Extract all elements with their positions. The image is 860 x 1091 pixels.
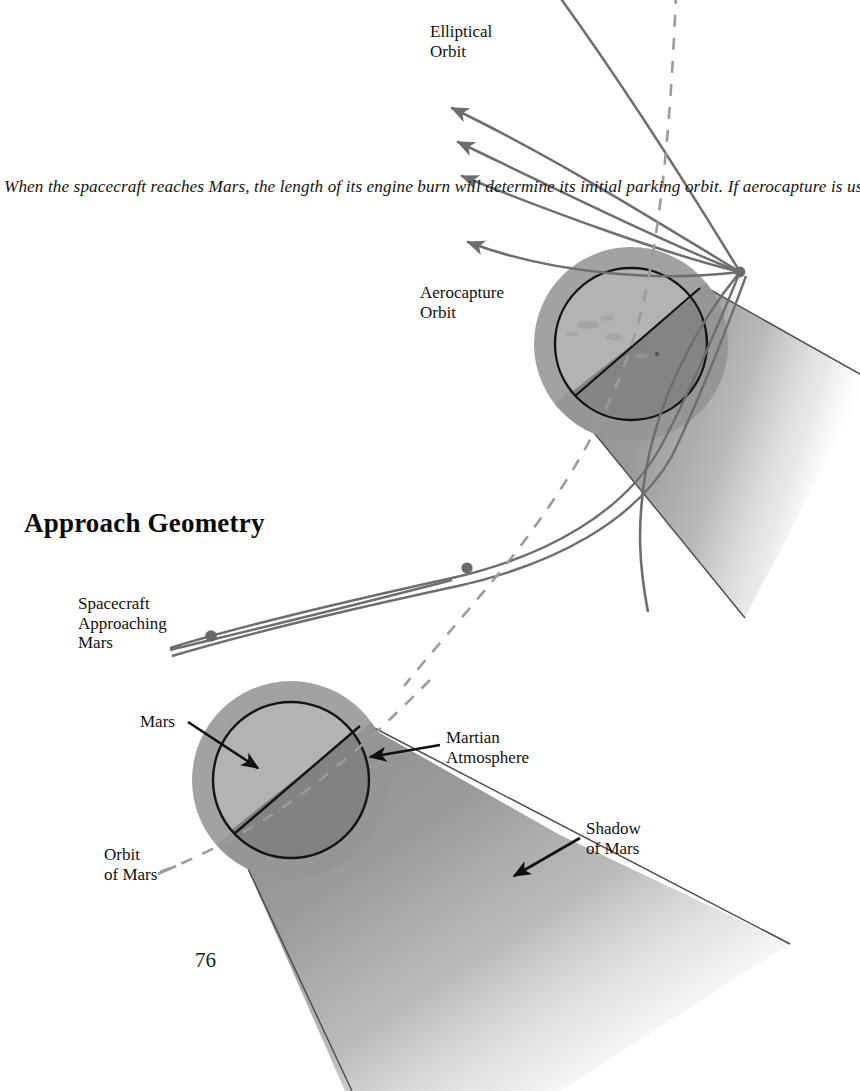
label-elliptical-orbit: Elliptical Orbit: [430, 22, 492, 61]
page-number: 76: [195, 948, 216, 972]
spacecraft-marker: [205, 630, 217, 642]
diagram-page: When the spacecraft reaches Mars, the le…: [0, 0, 860, 1091]
midcourse-marker: [461, 562, 472, 573]
capture-point-marker: [735, 267, 746, 278]
caption-paragraph: When the spacecraft reaches Mars, the le…: [4, 176, 422, 198]
label-shadow-of-mars: Shadow of Mars: [586, 819, 641, 858]
label-spacecraft-approaching-mars: Spacecraft Approaching Mars: [78, 594, 167, 653]
label-aerocapture-orbit: Aerocapture Orbit: [420, 283, 504, 322]
page-title: Approach Geometry: [24, 508, 265, 539]
label-martian-atmosphere: Martian Atmosphere: [446, 728, 529, 767]
approach-geometry-illustration: [0, 0, 860, 1091]
label-orbit-of-mars: Orbit of Mars: [104, 845, 157, 884]
label-mars: Mars: [140, 712, 175, 732]
